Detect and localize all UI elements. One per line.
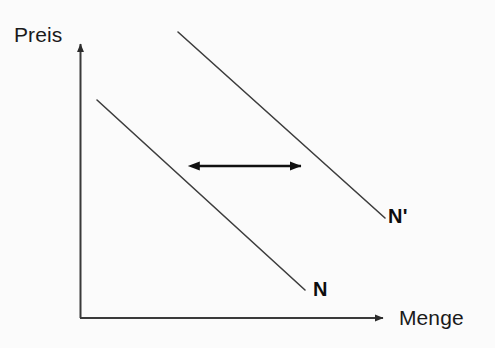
curve-label-n-prime: N': [388, 206, 408, 226]
curve-label-n: N: [313, 279, 328, 299]
demand-curve-n: [97, 100, 305, 290]
diagram-canvas: Preis Menge N N': [0, 0, 495, 348]
x-axis-label: Menge: [399, 307, 464, 328]
demand-curve-n-prime: [178, 32, 385, 218]
diagram-figure: [0, 0, 495, 348]
y-axis-label: Preis: [14, 24, 62, 45]
